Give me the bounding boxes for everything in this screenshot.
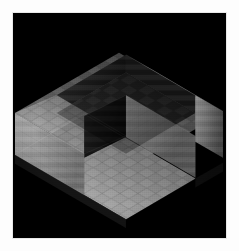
isometric-scene-canvas (13, 13, 226, 238)
render-canvas-frame (12, 12, 227, 239)
voxel-render-viewer (0, 0, 239, 251)
